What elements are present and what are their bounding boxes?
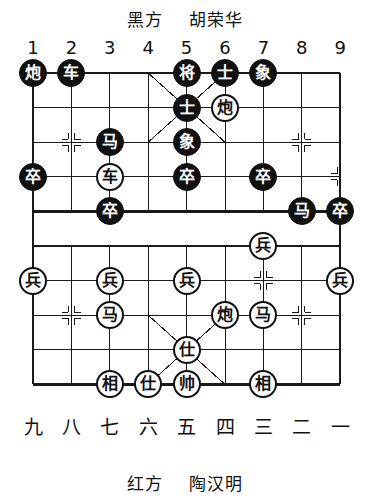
red-soldier-c1r6[interactable]: 兵 xyxy=(19,267,47,295)
bottom-column-label-7: 三 xyxy=(251,412,275,439)
bottom-column-label-3: 七 xyxy=(98,412,122,439)
black-general-c5r0[interactable]: 将 xyxy=(173,59,201,87)
bottom-column-label-8: 二 xyxy=(290,412,314,439)
red-soldier-c5r6[interactable]: 兵 xyxy=(173,267,201,295)
black-cannon-c1r0[interactable]: 炮 xyxy=(19,59,47,87)
bottom-column-label-2: 八 xyxy=(59,412,83,439)
black-pawn-c1r3[interactable]: 卒 xyxy=(19,163,47,191)
red-marshal-c5r9[interactable]: 帅 xyxy=(173,370,201,398)
red-side-caption: 红方 陶汉明 xyxy=(0,470,370,495)
red-minister-c3r9[interactable]: 相 xyxy=(96,370,124,398)
black-pawn-c3r4[interactable]: 卒 xyxy=(96,197,124,225)
red-soldier-c9r6[interactable]: 兵 xyxy=(326,267,354,295)
bottom-column-label-9: 一 xyxy=(328,412,352,439)
black-pawn-c5r3[interactable]: 卒 xyxy=(173,163,201,191)
red-cannon-c6r7[interactable]: 炮 xyxy=(211,301,239,329)
black-horse-c3r2[interactable]: 马 xyxy=(96,128,124,156)
red-soldier-c3r6[interactable]: 兵 xyxy=(96,267,124,295)
red-chariot-c3r3[interactable]: 车 xyxy=(96,163,124,191)
bottom-column-label-4: 六 xyxy=(136,412,160,439)
bottom-column-label-6: 四 xyxy=(213,412,237,439)
black-pawn-c7r3[interactable]: 卒 xyxy=(249,163,277,191)
red-horse-c3r7[interactable]: 马 xyxy=(96,301,124,329)
black-advisor-c6r0[interactable]: 士 xyxy=(211,59,239,87)
black-elephant-c5r2[interactable]: 象 xyxy=(173,128,201,156)
bottom-column-label-1: 九 xyxy=(21,412,45,439)
black-horse-c8r4[interactable]: 马 xyxy=(288,197,316,225)
red-advisor-c5r8[interactable]: 仕 xyxy=(173,336,201,364)
red-cannon-c6r1[interactable]: 炮 xyxy=(211,94,239,122)
bottom-column-label-5: 五 xyxy=(175,412,199,439)
xiangqi-diagram: 黑方 胡荣华 123456789 炮车将士象士炮马象卒车卒卒卒马卒兵兵兵兵兵马炮… xyxy=(0,0,370,500)
black-advisor-c5r1[interactable]: 士 xyxy=(173,94,201,122)
